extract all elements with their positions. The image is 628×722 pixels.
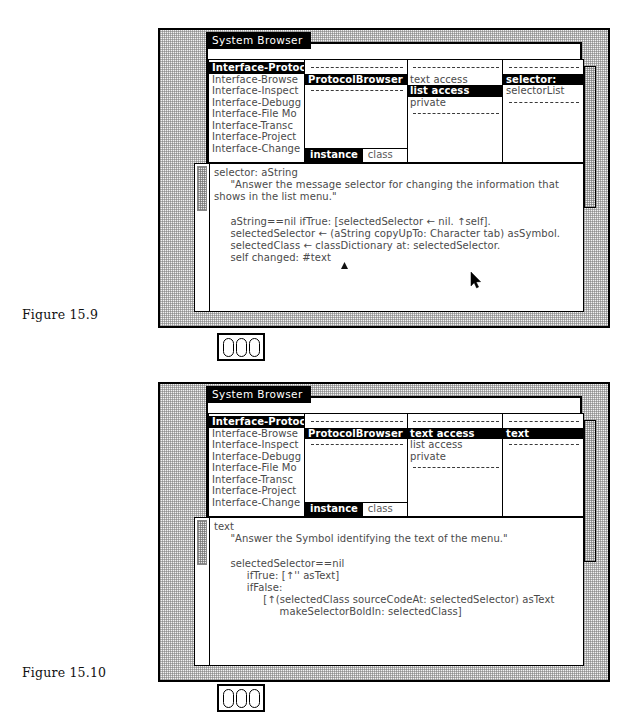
scrollbar-thumb[interactable] bbox=[197, 166, 207, 211]
code-line: self changed: #text bbox=[214, 252, 579, 264]
code-pane: text "Answer the Symbol identifying the … bbox=[194, 517, 584, 666]
code-line: "Answer the Symbol identifying the text … bbox=[214, 533, 579, 545]
separator-dashed bbox=[503, 97, 583, 109]
scrollbar-thumb[interactable] bbox=[197, 520, 207, 565]
protocol-list: text access list access private bbox=[407, 60, 503, 120]
code-vertical-scrollbar[interactable] bbox=[194, 163, 210, 312]
separator-dashed bbox=[407, 62, 503, 74]
list-item[interactable]: Interface-Browse bbox=[209, 428, 311, 440]
list-item[interactable]: Interface-Debugg bbox=[209, 97, 311, 109]
code-text-area[interactable]: selector: aString "Answer the message se… bbox=[208, 163, 584, 312]
list-item[interactable]: Interface-Change bbox=[209, 143, 311, 155]
code-line: text bbox=[214, 521, 579, 533]
system-browser-window: System Browser Interface-Protoc Interfac… bbox=[206, 42, 582, 312]
tab-class[interactable]: class bbox=[363, 503, 398, 516]
code-line: aString==nil ifTrue: [selectedSelector ←… bbox=[214, 216, 579, 228]
protocol-list-pane[interactable]: text access list access private bbox=[406, 413, 504, 517]
list-item[interactable]: Interface-Protoc bbox=[209, 416, 311, 428]
list-item[interactable]: list access bbox=[407, 85, 503, 97]
list-item[interactable]: Interface-Browse bbox=[209, 74, 311, 86]
separator-dashed bbox=[407, 416, 503, 428]
list-item[interactable]: Interface-Protoc bbox=[209, 62, 311, 74]
list-item[interactable]: text bbox=[503, 428, 583, 440]
separator-dashed bbox=[305, 62, 407, 74]
category-list-pane[interactable]: Interface-Protoc Interface-Browse Interf… bbox=[208, 413, 312, 517]
separator-dashed bbox=[503, 439, 583, 451]
list-item[interactable]: Interface-Inspect bbox=[209, 85, 311, 97]
class-list: ProtocolBrowser bbox=[305, 60, 407, 97]
list-item[interactable]: text access bbox=[407, 74, 503, 86]
code-line: ifTrue: [↑'' asText] bbox=[214, 570, 579, 582]
separator-dashed bbox=[407, 462, 503, 474]
list-item[interactable]: list access bbox=[407, 439, 503, 451]
selector-list-pane[interactable]: selector: selectorList bbox=[502, 59, 584, 163]
separator-dashed bbox=[305, 439, 407, 451]
code-line: shows in the list menu." bbox=[214, 191, 579, 203]
code-vertical-scrollbar[interactable] bbox=[194, 517, 210, 666]
list-item[interactable]: ProtocolBrowser bbox=[305, 74, 407, 86]
browser-panes: Interface-Protoc Interface-Browse Interf… bbox=[208, 413, 580, 517]
list-item[interactable]: text access bbox=[407, 428, 503, 440]
list-item[interactable]: selectorList bbox=[503, 85, 583, 97]
window-title[interactable]: System Browser bbox=[206, 386, 311, 403]
list-item[interactable]: ProtocolBrowser bbox=[305, 428, 407, 440]
code-text-area[interactable]: text "Answer the Symbol identifying the … bbox=[208, 517, 584, 666]
separator-dashed bbox=[503, 62, 583, 74]
separator-dashed bbox=[503, 416, 583, 428]
selector-list-pane[interactable]: text bbox=[502, 413, 584, 517]
tab-instance[interactable]: instance bbox=[305, 503, 363, 516]
figure-15-10: Figure 15.10 System Browser Interface-Pr… bbox=[0, 362, 628, 722]
class-list-pane[interactable]: ProtocolBrowser instance class bbox=[304, 59, 408, 163]
instance-class-tabs: instance class bbox=[305, 148, 407, 162]
protocol-list: text access list access private bbox=[407, 414, 503, 474]
protocol-list-pane[interactable]: text access list access private bbox=[406, 59, 504, 163]
code-line: selectedClass ← classDictionary at: sele… bbox=[214, 240, 579, 252]
list-item[interactable]: Interface-Transc bbox=[209, 474, 311, 486]
window-title[interactable]: System Browser bbox=[206, 32, 311, 49]
window-vertical-scrollbar[interactable] bbox=[584, 420, 596, 562]
list-item[interactable]: Interface-Project bbox=[209, 485, 311, 497]
category-list-pane[interactable]: Interface-Protoc Interface-Browse Interf… bbox=[208, 59, 312, 163]
code-pane: selector: aString "Answer the message se… bbox=[194, 163, 584, 312]
selector-list: selector: selectorList bbox=[503, 60, 583, 108]
list-item[interactable]: Interface-Project bbox=[209, 131, 311, 143]
bar-glyph-3 bbox=[249, 338, 260, 357]
category-list: Interface-Protoc Interface-Browse Interf… bbox=[209, 60, 311, 154]
bar-glyph-3 bbox=[249, 689, 260, 708]
browser-panes: Interface-Protoc Interface-Browse Interf… bbox=[208, 59, 580, 163]
list-item[interactable]: Interface-File Mo bbox=[209, 462, 311, 474]
class-list-pane[interactable]: ProtocolBrowser instance class bbox=[304, 413, 408, 517]
window-vertical-scrollbar[interactable] bbox=[584, 66, 596, 208]
bar-glyph-2 bbox=[236, 689, 247, 708]
three-bars-icon[interactable] bbox=[217, 684, 265, 712]
class-list: ProtocolBrowser bbox=[305, 414, 407, 451]
code-line bbox=[214, 204, 579, 216]
list-item[interactable]: Interface-File Mo bbox=[209, 108, 311, 120]
separator-dashed bbox=[407, 108, 503, 120]
list-item[interactable]: Interface-Inspect bbox=[209, 439, 311, 451]
list-item[interactable]: selector: bbox=[503, 74, 583, 86]
category-list: Interface-Protoc Interface-Browse Interf… bbox=[209, 414, 311, 508]
desktop-background: System Browser Interface-Protoc Interfac… bbox=[158, 382, 610, 682]
list-item[interactable]: Interface-Debugg bbox=[209, 451, 311, 463]
code-line: [↑(selectedClass sourceCodeAt: selectedS… bbox=[214, 594, 579, 606]
separator-dashed bbox=[305, 85, 407, 97]
code-line: ifFalse: bbox=[214, 582, 579, 594]
figure-caption: Figure 15.10 bbox=[22, 665, 106, 680]
code-line: selector: aString bbox=[214, 167, 579, 179]
list-item[interactable]: private bbox=[407, 451, 503, 463]
list-item[interactable]: private bbox=[407, 97, 503, 109]
three-bars-icon[interactable] bbox=[217, 333, 265, 361]
code-line bbox=[214, 545, 579, 557]
figure-15-9: Figure 15.9 System Browser Interface-Pro… bbox=[0, 0, 628, 362]
list-item[interactable]: Interface-Transc bbox=[209, 120, 311, 132]
code-line: makeSelectorBoldIn: selectedClass] bbox=[214, 606, 579, 618]
figure-caption: Figure 15.9 bbox=[22, 307, 98, 322]
selector-list: text bbox=[503, 414, 583, 451]
list-item[interactable]: Interface-Change bbox=[209, 497, 311, 509]
code-line: "Answer the message selector for changin… bbox=[214, 179, 579, 191]
tab-instance[interactable]: instance bbox=[305, 149, 363, 162]
mouse-pointer-icon bbox=[470, 272, 482, 290]
tab-class[interactable]: class bbox=[363, 149, 398, 162]
code-line: selectedSelector ← (aString copyUpTo: Ch… bbox=[214, 228, 579, 240]
